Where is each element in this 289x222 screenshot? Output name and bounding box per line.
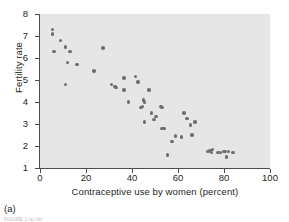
data-point xyxy=(225,155,229,159)
data-point xyxy=(127,100,131,104)
y-tick-label: 5 xyxy=(23,75,28,85)
trailing-caption: FIGURE 1 (a) (b) xyxy=(4,216,284,221)
data-point xyxy=(150,111,154,115)
x-tick-label: 0 xyxy=(37,173,42,183)
data-point xyxy=(154,115,158,119)
y-tick-label: 6 xyxy=(23,53,28,63)
data-point xyxy=(152,118,156,122)
data-point xyxy=(51,32,55,36)
x-tick-label: 100 xyxy=(262,173,278,183)
data-point xyxy=(122,76,126,80)
x-axis-line xyxy=(39,168,270,169)
y-tick: 2 xyxy=(35,146,40,147)
y-tick: 8 xyxy=(35,14,40,15)
data-point xyxy=(52,50,56,54)
data-point xyxy=(193,120,197,124)
scatter-plot-figure: Fertility rate 12345678 020406080100 Con… xyxy=(0,0,289,222)
panel-caption: (a) xyxy=(4,203,16,214)
data-point xyxy=(64,45,68,49)
x-tick-label: 80 xyxy=(219,173,230,183)
y-tick-label: 1 xyxy=(23,163,28,173)
plot-area xyxy=(40,14,270,168)
data-point xyxy=(143,120,147,124)
x-tick-label: 40 xyxy=(127,173,138,183)
y-tick: 5 xyxy=(35,80,40,81)
data-point xyxy=(92,69,96,73)
y-tick-label: 7 xyxy=(23,31,28,41)
y-tick-label: 3 xyxy=(23,119,28,129)
y-tick: 3 xyxy=(35,124,40,125)
data-point xyxy=(166,153,170,157)
data-point xyxy=(190,133,194,137)
data-point xyxy=(68,50,72,54)
x-tick-label: 20 xyxy=(81,173,92,183)
data-point xyxy=(182,111,186,115)
data-point xyxy=(136,80,140,84)
data-point xyxy=(147,88,151,92)
data-point xyxy=(75,63,79,67)
data-point xyxy=(162,127,166,131)
y-tick-label: 8 xyxy=(23,9,28,19)
data-point xyxy=(160,106,164,110)
plot-frame: 12345678 020406080100 xyxy=(40,14,270,168)
x-tick-label: 60 xyxy=(173,173,184,183)
y-tick: 6 xyxy=(35,58,40,59)
y-tick-label: 4 xyxy=(23,97,28,107)
y-tick: 7 xyxy=(35,36,40,37)
data-point xyxy=(122,88,126,92)
y-tick: 4 xyxy=(35,102,40,103)
x-axis-label: Contraceptive use by women (percent) xyxy=(40,186,270,197)
data-point xyxy=(101,46,105,50)
y-tick-label: 2 xyxy=(23,141,28,151)
